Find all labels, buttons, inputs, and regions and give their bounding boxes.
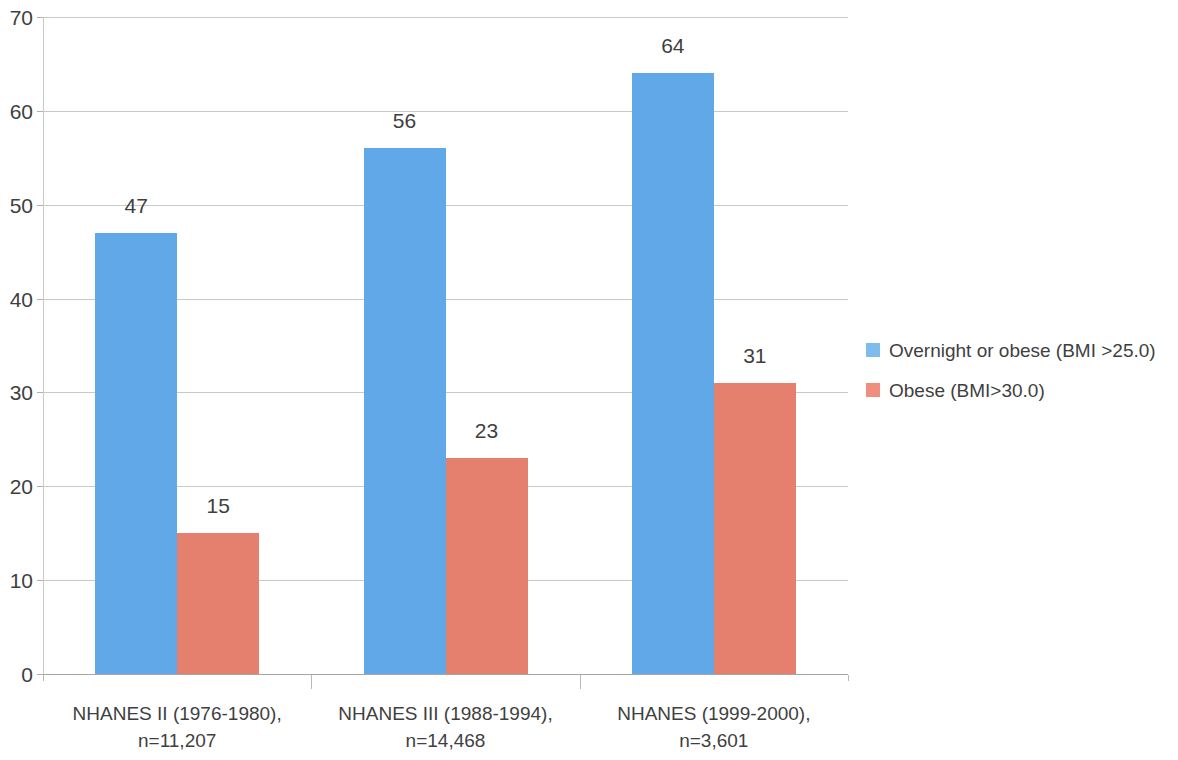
gridline <box>43 17 848 18</box>
legend-item[interactable]: Obese (BMI>30.0) <box>866 370 1176 410</box>
gridline <box>43 111 848 112</box>
x-axis-category-label-line2: n=11,207 <box>43 727 311 754</box>
x-axis-end-tick <box>43 675 44 681</box>
x-axis-category-label-line2: n=14,468 <box>311 727 579 754</box>
legend-item[interactable]: Overnight or obese (BMI >25.0) <box>866 330 1176 370</box>
y-axis-tick-label: 70 <box>0 7 33 28</box>
x-axis-category-label: NHANES III (1988-1994),n=14,468 <box>311 700 579 754</box>
bar-value-label: 31 <box>714 345 796 366</box>
y-axis-tick-label: 10 <box>0 570 33 591</box>
legend-item-label: Overnight or obese (BMI >25.0) <box>889 341 1156 360</box>
bar-value-label: 64 <box>632 35 714 56</box>
y-axis-tick-label: 20 <box>0 476 33 497</box>
x-axis-end-tick <box>848 675 849 681</box>
chart-legend: Overnight or obese (BMI >25.0)Obese (BMI… <box>866 330 1176 410</box>
y-axis-tick-label: 50 <box>0 195 33 216</box>
y-axis-tick-label: 30 <box>0 382 33 403</box>
y-axis-tick-label: 0 <box>0 664 33 685</box>
legend-color-swatch <box>866 383 880 397</box>
bar-obese[interactable] <box>714 383 796 674</box>
bar-chart: 010203040506070 471556236431 NHANES II (… <box>0 0 1178 760</box>
y-axis-tick-label: 60 <box>0 101 33 122</box>
bar-obese[interactable] <box>177 533 259 674</box>
x-axis-category-label: NHANES II (1976-1980),n=11,207 <box>43 700 311 754</box>
bar-value-label: 47 <box>95 195 177 216</box>
legend-item-label: Obese (BMI>30.0) <box>889 381 1045 400</box>
bar-overweight-obese[interactable] <box>95 233 177 674</box>
x-axis-category-label-line1: NHANES II (1976-1980), <box>73 703 282 724</box>
gridline <box>43 674 848 675</box>
legend-color-swatch <box>866 343 880 357</box>
bar-value-label: 23 <box>446 420 528 441</box>
x-axis-category-label-line1: NHANES (1999-2000), <box>617 703 810 724</box>
y-axis-tick-label: 40 <box>0 289 33 310</box>
x-axis-category-separator <box>580 675 581 689</box>
bar-obese[interactable] <box>446 458 528 674</box>
x-axis-category-separator <box>311 675 312 689</box>
bar-overweight-obese[interactable] <box>364 148 446 674</box>
x-axis-category-label-line2: n=3,601 <box>580 727 848 754</box>
x-axis-category-label-line1: NHANES III (1988-1994), <box>338 703 552 724</box>
bar-value-label: 15 <box>177 495 259 516</box>
bar-value-label: 56 <box>364 110 446 131</box>
x-axis-category-label: NHANES (1999-2000),n=3,601 <box>580 700 848 754</box>
bar-overweight-obese[interactable] <box>632 73 714 674</box>
